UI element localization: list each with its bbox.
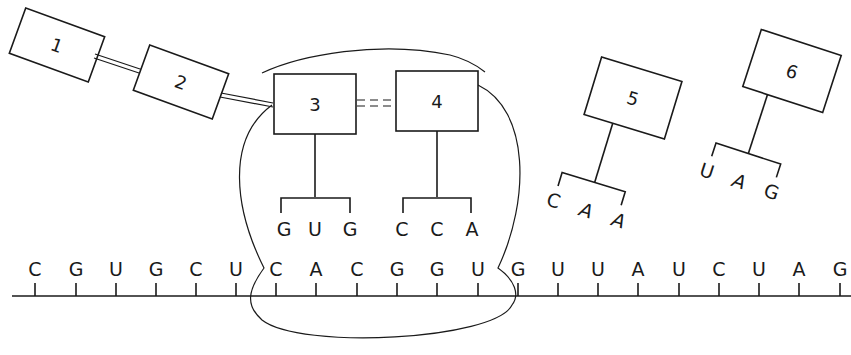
anticodon-3-2: U: [308, 218, 322, 240]
mrna-codons: CGUGCUCACGGUGUUAUCUAG: [28, 258, 847, 296]
trna-stem-5: [595, 123, 613, 182]
anticodon-6-1: U: [697, 158, 717, 183]
mrna-base: C: [189, 258, 202, 280]
mrna-base: A: [310, 258, 323, 280]
mrna-base: A: [793, 258, 806, 280]
trna-1: 1: [9, 8, 104, 82]
anticodon-4-3: A: [466, 218, 479, 240]
mrna-base: C: [28, 258, 41, 280]
mrna-base: U: [471, 258, 485, 280]
trna-2: 2: [133, 45, 228, 119]
anticodon-6-2: A: [728, 168, 749, 194]
trna-5: 5 C A A: [544, 54, 682, 237]
mrna-base: A: [632, 258, 645, 280]
mrna-base: U: [752, 258, 766, 280]
mrna-base: U: [551, 258, 565, 280]
anticodon-3-3: G: [343, 218, 358, 240]
mrna-base: U: [591, 258, 605, 280]
mrna-base: C: [712, 258, 725, 280]
mrna-base: C: [269, 258, 282, 280]
anticodon-4-2: C: [430, 218, 443, 240]
peptide-bond-1-2-b: [94, 58, 142, 74]
anticodon-5-1: C: [544, 188, 563, 213]
trna-bracket-4: [403, 198, 471, 213]
anticodon-6-3: G: [761, 179, 782, 204]
anticodon-5-3: A: [607, 207, 628, 232]
mrna-base: U: [229, 258, 243, 280]
trna-label-3: 3: [309, 94, 320, 115]
mrna-base: G: [511, 258, 526, 280]
mrna-base: G: [390, 258, 405, 280]
mrna-base: U: [672, 258, 686, 280]
anticodon-4-1: C: [395, 218, 408, 240]
anticodon-3-1: G: [277, 218, 292, 240]
mrna-base: C: [350, 258, 363, 280]
mrna-base: U: [109, 258, 123, 280]
mrna-base: G: [833, 258, 848, 280]
mrna-base: G: [69, 258, 84, 280]
mrna-base: G: [149, 258, 164, 280]
trna-6: 6 U A G: [697, 25, 841, 210]
trna-stem-6: [748, 95, 767, 154]
trna-bracket-3: [281, 198, 350, 213]
mrna-base: G: [430, 258, 445, 280]
peptide-bond-1-2: [95, 54, 143, 70]
translation-diagram: CGUGCUCACGGUGUUAUCUAG 1 2 3 G U G 4 C C …: [0, 0, 851, 355]
anticodon-5-2: A: [575, 197, 596, 222]
trna-label-4: 4: [431, 91, 442, 112]
